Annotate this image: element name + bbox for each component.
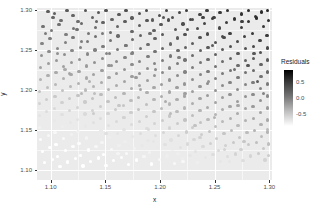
data-point [83, 112, 86, 115]
data-point [242, 140, 245, 143]
data-point [167, 18, 170, 21]
data-point [191, 102, 194, 105]
data-point [161, 119, 164, 122]
data-point [38, 102, 41, 105]
data-point [53, 12, 56, 15]
data-point [162, 16, 165, 19]
data-point [255, 16, 258, 19]
legend-tick-mark [293, 98, 295, 99]
data-point [152, 110, 155, 113]
data-point [101, 32, 104, 35]
data-point [61, 125, 64, 128]
data-point [211, 153, 214, 156]
data-point [160, 83, 163, 86]
data-point [213, 116, 216, 119]
data-point [76, 118, 79, 121]
data-point [117, 13, 120, 16]
data-point [218, 11, 221, 14]
data-point [88, 80, 91, 83]
data-point [221, 96, 224, 99]
data-point [236, 64, 239, 67]
data-point [181, 160, 184, 163]
data-point [232, 141, 235, 144]
data-point [38, 114, 41, 117]
data-point [131, 38, 134, 41]
data-point [208, 130, 211, 133]
data-point [60, 113, 63, 116]
data-point [68, 109, 71, 112]
data-point [198, 85, 201, 88]
data-point [185, 130, 188, 133]
data-point [107, 88, 110, 91]
data-point [80, 22, 83, 25]
data-point [236, 112, 239, 115]
data-point [160, 95, 163, 98]
data-point [62, 137, 65, 140]
data-point [240, 20, 243, 23]
data-point [260, 135, 263, 138]
data-point [99, 117, 102, 120]
data-point [183, 70, 186, 73]
gridline-horizontal [37, 130, 272, 131]
data-point [228, 160, 231, 163]
data-point [137, 96, 140, 99]
data-point [267, 142, 270, 145]
data-point [87, 148, 90, 151]
data-point [70, 133, 73, 136]
data-point [105, 52, 108, 55]
data-point [130, 75, 133, 78]
data-point [51, 16, 54, 19]
data-point [40, 54, 43, 57]
y-tick-label: 1.15 [20, 127, 32, 133]
data-point [262, 92, 265, 95]
data-point [168, 78, 171, 81]
data-point [247, 20, 250, 23]
x-tick-mark [105, 180, 106, 183]
data-point [229, 45, 232, 48]
data-point [224, 144, 227, 147]
data-point [138, 24, 141, 27]
data-point [240, 26, 243, 29]
data-point [153, 50, 156, 53]
data-point [74, 157, 77, 160]
data-point [138, 60, 141, 63]
data-point [209, 142, 212, 145]
data-point [40, 42, 43, 45]
data-point [252, 69, 255, 72]
data-point [191, 42, 194, 45]
data-point [215, 137, 218, 140]
y-tick-label: 1.20 [20, 87, 32, 93]
data-point [169, 54, 172, 57]
data-point [86, 52, 89, 55]
data-point [41, 150, 44, 153]
data-point [206, 58, 209, 61]
legend-tick-label: 0.5 [296, 79, 304, 85]
data-point [221, 72, 224, 75]
data-point [87, 32, 90, 35]
data-point [198, 109, 201, 112]
data-point [46, 86, 49, 89]
data-point [253, 129, 256, 132]
data-point [244, 59, 247, 62]
data-point [171, 150, 174, 153]
data-point [259, 123, 262, 126]
data-point [39, 66, 42, 69]
data-point [80, 92, 83, 95]
data-point [152, 140, 155, 143]
data-point [44, 32, 47, 35]
data-point [84, 88, 87, 91]
data-point [79, 46, 82, 49]
data-point [259, 51, 262, 54]
data-point [162, 131, 165, 134]
gridline-horizontal [37, 10, 272, 11]
data-point [55, 59, 58, 62]
data-point [142, 155, 145, 158]
data-point [99, 93, 102, 96]
data-point [108, 52, 111, 55]
data-point [47, 50, 50, 53]
data-point [107, 76, 110, 79]
data-point [76, 106, 79, 109]
data-point [228, 32, 231, 35]
data-point [53, 119, 56, 122]
data-point [214, 77, 217, 80]
